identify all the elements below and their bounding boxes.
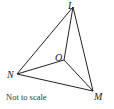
edge-OL xyxy=(64,7,73,60)
not-to-scale-note: Not to scale xyxy=(6,92,47,102)
vertex-label-O: O xyxy=(55,52,62,63)
vertex-label-N: N xyxy=(6,69,15,80)
edge-NL xyxy=(17,7,73,74)
edge-OM xyxy=(64,60,93,91)
triangle-diagram: L O N M Not to scale xyxy=(0,0,114,109)
edge-LM xyxy=(73,7,93,91)
vertex-label-L: L xyxy=(67,0,74,11)
edge-MN xyxy=(17,74,93,91)
vertex-label-M: M xyxy=(93,91,103,102)
